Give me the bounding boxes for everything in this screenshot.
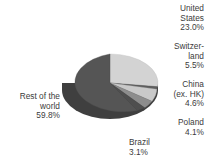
slice-label-switzerland: Switzer- land 5.5%: [174, 42, 204, 71]
slice-value-poland: 4.1%: [178, 128, 204, 138]
slice-label-poland: Poland 4.1%: [178, 118, 204, 137]
slice-label-brazil: Brazil 3.1%: [129, 138, 150, 157]
pie-chart-figure: United States 23.0% Switzer- land 5.5% C…: [0, 0, 208, 166]
slice-label-rest-of-world: Rest of the world 59.8%: [4, 92, 60, 121]
pie-slice-united-states: [110, 54, 158, 87]
slice-value-united-states: 23.0%: [180, 23, 204, 33]
slice-value-switzerland: 5.5%: [174, 61, 204, 71]
slice-label-china: China (ex. HK) 4.6%: [173, 80, 204, 109]
slice-value-china: 4.6%: [173, 99, 204, 109]
slice-value-brazil: 3.1%: [129, 148, 150, 158]
slice-label-united-states: United States 23.0%: [180, 4, 204, 33]
slice-value-rest-of-world: 59.8%: [4, 111, 60, 121]
